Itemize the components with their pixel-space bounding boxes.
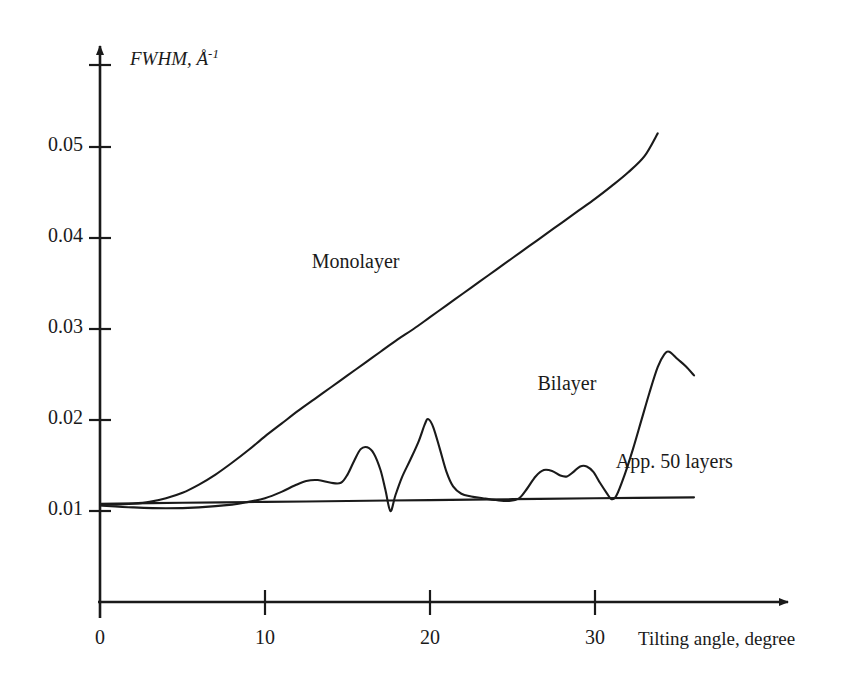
series-curve-bilayer (100, 351, 694, 511)
x-axis-tick-label: 10 (235, 626, 295, 649)
y-axis-title-text: FWHM, Å (130, 48, 208, 69)
series-curve-monolayer (100, 133, 658, 504)
series-label-monolayer: Monolayer (312, 250, 400, 273)
x-axis-title: Tilting angle, degree (638, 628, 795, 650)
series-curve-app-50-layers (100, 497, 694, 503)
y-axis-title-exponent: -1 (208, 46, 219, 61)
y-axis-tick-label: 0.01 (5, 497, 83, 520)
chart-figure: FWHM, Å-1 0.010.020.030.040.05 0102030 T… (0, 0, 843, 685)
y-axis-title: FWHM, Å-1 (130, 46, 219, 70)
chart-plot-area (0, 0, 843, 685)
y-axis-tick-label: 0.03 (5, 315, 83, 338)
y-axis-tick-label: 0.02 (5, 406, 83, 429)
x-axis-tick-label: 0 (70, 626, 130, 649)
y-axis-tick-label: 0.04 (5, 224, 83, 247)
chart-series-group (100, 133, 694, 511)
series-label-bilayer: Bilayer (537, 372, 596, 395)
series-label-app-50-layers: App. 50 layers (616, 450, 733, 473)
x-axis-tick-label: 20 (400, 626, 460, 649)
y-axis-tick-label: 0.05 (5, 133, 83, 156)
x-axis-tick-label: 30 (565, 626, 625, 649)
